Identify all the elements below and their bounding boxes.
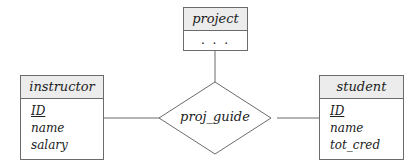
entity-student-attributes: ID name tot_cred: [320, 99, 403, 154]
entity-instructor: instructor ID name salary: [20, 75, 104, 160]
entity-student-title: student: [320, 76, 403, 99]
attribute-id-primary-key: ID: [31, 103, 103, 120]
entity-instructor-title: instructor: [21, 76, 103, 99]
entity-project-attributes: . . .: [184, 31, 247, 47]
entity-project-title: project: [184, 8, 247, 31]
entity-project: project . . .: [183, 7, 248, 51]
attribute-name: name: [31, 120, 103, 137]
attribute-tot-cred: tot_cred: [330, 137, 403, 154]
entity-student: student ID name tot_cred: [319, 75, 404, 160]
attribute-id-primary-key: ID: [330, 103, 403, 120]
attribute-name: name: [330, 120, 403, 137]
attribute-salary: salary: [31, 137, 103, 154]
entity-instructor-attributes: ID name salary: [21, 99, 103, 154]
relationship-label: proj_guide: [159, 109, 271, 124]
